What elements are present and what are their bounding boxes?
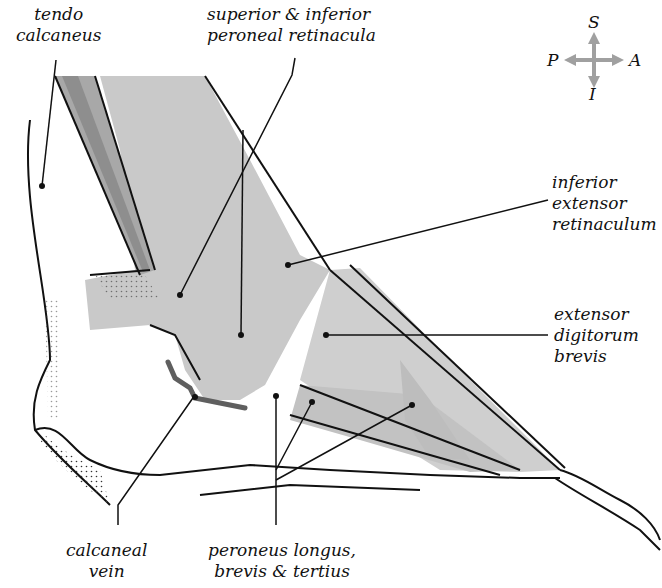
label-peroneal-retinacula: superior & inferior peroneal retinacula [207, 4, 376, 46]
ankle-anatomy-diagram: S I P A tendo calcaneus superior & infer… [0, 0, 662, 588]
orientation-compass [564, 32, 624, 88]
label-extensor-digitorum-brevis: extensor digitorum brevis [554, 304, 639, 367]
anatomy-illustration [0, 0, 662, 588]
label-calcaneal-vein: calcaneal vein [66, 540, 147, 582]
orientation-posterior: P [547, 50, 558, 70]
label-inferior-extensor-retinaculum: inferior extensor retinaculum [552, 172, 657, 235]
label-tendo-calcaneus: tendo calcaneus [16, 4, 101, 46]
orientation-anterior: A [629, 50, 641, 70]
label-peroneus-tendons: peroneus longus, brevis & tertius [208, 540, 356, 582]
orientation-inferior: I [589, 84, 596, 104]
retinaculum-sheet [85, 76, 330, 400]
orientation-superior: S [588, 12, 600, 32]
